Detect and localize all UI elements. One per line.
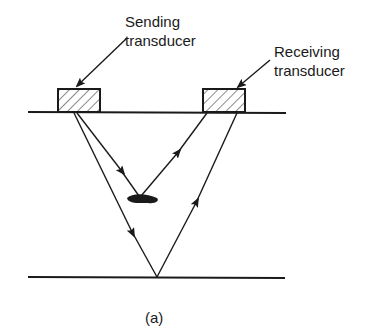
defect-echo-path bbox=[77, 113, 207, 196]
receiving-label-line1: Receiving bbox=[274, 42, 345, 61]
sending-label-line2: transducer bbox=[125, 31, 196, 50]
receiving-leader-arrow bbox=[238, 60, 270, 87]
sending-transducer-label: Sending transducer bbox=[125, 12, 196, 50]
sending-transducer bbox=[58, 89, 100, 112]
receiving-transducer-label: Receiving transducer bbox=[274, 42, 345, 80]
figure-caption: (a) bbox=[145, 308, 163, 327]
sending-label-line1: Sending bbox=[125, 12, 196, 31]
receiving-transducer bbox=[203, 89, 245, 112]
sending-leader-arrow bbox=[77, 38, 127, 86]
receiving-label-line2: transducer bbox=[274, 61, 345, 80]
defect-flaw bbox=[127, 194, 158, 203]
back-wall-echo-path bbox=[74, 113, 237, 277]
